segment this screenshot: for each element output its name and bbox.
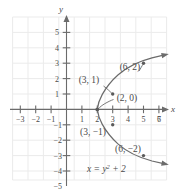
x-tick-label-1: 1 [80, 115, 84, 124]
equation-tail: + 2 [110, 164, 126, 174]
parabola-figure: −3 −2 −1 1 2 3 4 5 6 7 5 4 3 2 1 −1 −2 −… [0, 0, 183, 192]
x-tick-label-7: 7 [157, 115, 161, 124]
point-marker-6--2 [142, 154, 145, 157]
x-tick-label-5: 5 [142, 115, 146, 124]
y-tick-label-1: 1 [55, 90, 59, 99]
plot-svg: −3 −2 −1 1 2 3 4 5 6 7 5 4 3 2 1 −1 −2 −… [0, 0, 183, 192]
y-tick-label--3: −3 [53, 152, 62, 161]
y-tick-label--2: −2 [53, 136, 62, 145]
point-label-3--1: (3, −1) [80, 127, 106, 138]
y-tick-label-5: 5 [55, 28, 59, 37]
y-tick-label--1: −1 [53, 121, 62, 130]
x-tick-label-3: 3 [111, 115, 115, 124]
point-marker-6-2 [142, 62, 145, 65]
svg-text:x = y2 + 2: x = y2 + 2 [86, 163, 126, 174]
equation-main: x = y [86, 164, 107, 174]
x-axis-label: x [170, 104, 175, 114]
point-label-6-2: (6, 2) [120, 62, 141, 73]
point-label-6--2: (6, −2) [115, 144, 141, 155]
equation-label: x = y2 + 2 [86, 163, 126, 174]
y-tick-label-2: 2 [55, 75, 59, 84]
point-label-3-1: (3, 1) [79, 75, 100, 86]
y-tick-label-3: 3 [55, 59, 59, 68]
x-tick-label-4: 4 [126, 115, 130, 124]
point-marker-3--1 [111, 123, 114, 126]
y-axis-label: y [58, 4, 63, 14]
y-tick-label--4: −4 [53, 167, 62, 176]
point-label-2-0: (2, 0) [117, 93, 138, 104]
x-tick-label--3: −3 [16, 115, 25, 124]
y-tick-label-4: 4 [55, 44, 59, 53]
y-tick-label--5: −5 [53, 182, 62, 191]
x-tick-label--2: −2 [31, 115, 40, 124]
